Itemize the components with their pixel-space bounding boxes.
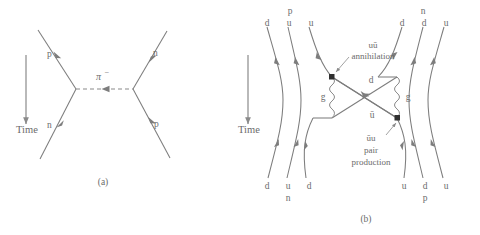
label-top-left-quark-2: u <box>309 18 314 28</box>
label-bottom-left-hadron: n <box>286 193 291 203</box>
diagram-canvas: Time p n n p π − (a) <box>0 0 480 235</box>
label-bottom-right-hadron: p <box>423 193 428 203</box>
label-top-right-quark-0: d <box>400 18 405 28</box>
quark-line-right-u-to-vertex <box>397 118 406 178</box>
label-bottom-left-quark-2: d <box>307 181 312 191</box>
label-bottom-left-quark-0: d <box>265 181 270 191</box>
caption-b: (b) <box>360 214 371 225</box>
label-gluon-left: g <box>321 92 326 102</box>
quark-line-right-d <box>409 27 423 178</box>
panel-b: p d u u n d d u d u d n u d u p d ū g g <box>238 6 449 225</box>
fermion-line-neutron-out-a <box>133 31 167 89</box>
label-antiu-quark-exchange: ū <box>370 110 375 120</box>
label-top-right-quark-2: u <box>444 18 449 28</box>
label-bottom-right-quark-2: u <box>444 181 449 191</box>
gluon-left <box>330 77 335 118</box>
label-proton-out-a: p <box>154 119 159 129</box>
svg-text:π: π <box>96 71 102 82</box>
pion-exchange-line <box>76 86 133 92</box>
quark-line-left-u2-to-vertex <box>309 27 332 77</box>
fermion-line-proton-in-a <box>38 30 76 89</box>
caption-a: (a) <box>98 177 109 188</box>
label-top-left-quark-0: d <box>265 18 270 28</box>
annihilation-annotation: uū annihilation <box>352 40 395 61</box>
label-top-left-quark-1: u <box>287 18 292 28</box>
label-bottom-right-quark-1: d <box>423 181 428 191</box>
label-proton-in-a: p <box>47 49 52 59</box>
annihilation-pointer <box>336 57 349 72</box>
svg-text:−: − <box>104 68 109 77</box>
label-neutron-in-a: n <box>47 120 52 130</box>
quark-line-left-d <box>267 27 283 178</box>
svg-text:ūu: ūu <box>367 133 377 143</box>
pair-production-annotation: ūu pair production <box>352 133 391 167</box>
label-neutron-out-a: n <box>153 48 158 58</box>
vertex-annihilation <box>329 74 335 80</box>
svg-text:uū: uū <box>369 40 379 50</box>
quark-line-right-u <box>428 27 444 178</box>
quark-line-left-u <box>287 27 301 178</box>
time-label-b: Time <box>238 124 260 135</box>
time-label-a: Time <box>16 124 38 135</box>
label-top-right-quark-1: d <box>422 18 427 28</box>
fermion-line-proton-out-a <box>133 89 170 158</box>
svg-text:pair: pair <box>364 145 378 155</box>
fermion-line-neutron-in-a <box>40 89 76 159</box>
svg-text:production: production <box>352 157 391 167</box>
label-gluon-right: g <box>406 92 411 102</box>
gluon-right <box>395 77 400 118</box>
vertex-pair-production <box>395 115 401 121</box>
label-top-right-hadron: n <box>421 6 426 16</box>
label-pion: π − <box>96 68 109 82</box>
panel-a: Time p n n p π − (a) <box>16 30 170 188</box>
svg-text:annihilation: annihilation <box>352 51 395 61</box>
label-bottom-left-quark-1: u <box>286 181 291 191</box>
feynman-diagram-figure: Time p n n p π − (a) <box>0 0 480 235</box>
pair-production-pointer <box>386 123 396 135</box>
label-bottom-right-quark-0: u <box>402 181 407 191</box>
label-top-left-hadron: p <box>288 6 293 16</box>
quark-line-left-out-from-vertex <box>304 118 313 178</box>
label-d-quark-exchange: d <box>369 75 374 85</box>
